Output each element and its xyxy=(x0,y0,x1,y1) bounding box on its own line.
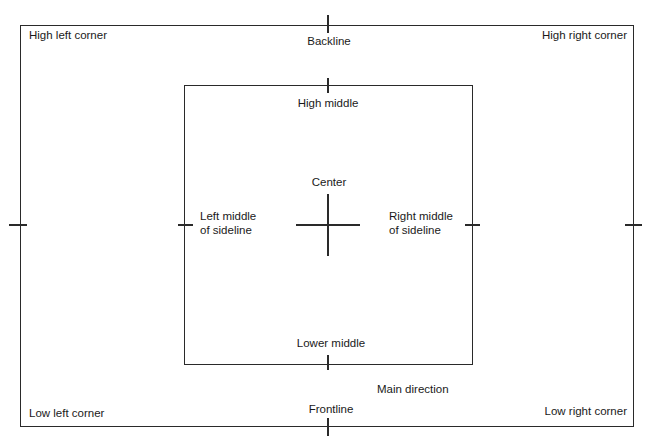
right-middle-line1: Right middle xyxy=(389,209,453,223)
high-middle-tick xyxy=(327,78,329,93)
center-label: Center xyxy=(312,175,347,189)
high-middle-label: High middle xyxy=(298,96,359,110)
outer-left-tick xyxy=(9,224,27,226)
right-middle-sideline-label: Right middle of sideline xyxy=(389,209,453,237)
left-middle-line2: of sideline xyxy=(200,223,256,237)
right-middle-line2: of sideline xyxy=(389,223,453,237)
main-direction-label: Main direction xyxy=(377,382,449,396)
backline-tick xyxy=(327,15,329,33)
left-sideline-tick xyxy=(178,224,193,226)
high-left-corner-label: High left corner xyxy=(29,28,107,42)
center-cross-vertical xyxy=(327,194,329,256)
lower-middle-label: Lower middle xyxy=(297,336,365,350)
backline-label: Backline xyxy=(307,34,350,48)
low-left-corner-label: Low left corner xyxy=(29,406,104,420)
low-right-corner-label: Low right corner xyxy=(545,404,627,418)
high-right-corner-label: High right corner xyxy=(542,28,627,42)
frontline-tick xyxy=(327,418,329,436)
frontline-label: Frontline xyxy=(309,402,354,416)
lower-middle-tick xyxy=(327,355,329,370)
outer-right-tick xyxy=(625,224,642,226)
left-middle-line1: Left middle xyxy=(200,209,256,223)
right-sideline-tick xyxy=(465,224,480,226)
left-middle-sideline-label: Left middle of sideline xyxy=(200,209,256,237)
